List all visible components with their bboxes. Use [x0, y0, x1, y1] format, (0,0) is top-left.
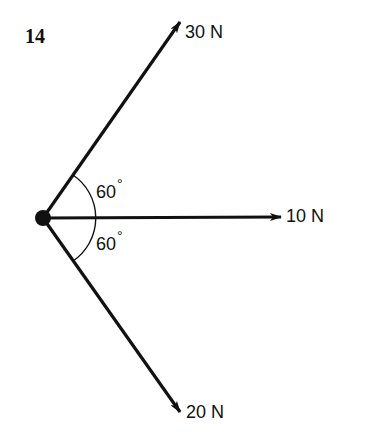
label-10n: 10 N [286, 206, 324, 227]
degree-symbol-upper: ° [117, 176, 123, 192]
angle-value-lower: 60 [96, 234, 116, 254]
angle-label-upper: 60° [96, 182, 123, 203]
angle-label-lower: 60° [96, 234, 123, 255]
origin-point [35, 210, 51, 226]
angle-value-upper: 60 [96, 182, 116, 202]
force-vectors-svg [0, 0, 388, 436]
label-30n: 30 N [185, 22, 223, 43]
force-diagram: 14 30 N 10 N 20 N 60° 60° [0, 0, 388, 436]
vector-10n [43, 217, 281, 218]
label-20n: 20 N [186, 402, 224, 423]
degree-symbol-lower: ° [117, 228, 123, 244]
problem-number: 14 [25, 25, 45, 48]
